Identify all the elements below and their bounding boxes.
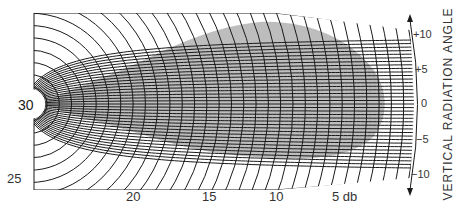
db-label-10: 10 <box>269 190 283 203</box>
db-label-5: 5 db <box>332 190 357 203</box>
angle-label-0: 0 <box>421 98 427 109</box>
angle-label-plus10: +10 <box>413 29 432 40</box>
angle-axis-line <box>410 20 418 190</box>
arrow-down-icon <box>407 188 413 196</box>
center-db-label: 30 <box>18 97 34 113</box>
angle-label-plus5: +5 <box>415 64 428 75</box>
angle-label-minus5: −5 <box>416 134 429 145</box>
radiation-pattern-diagram <box>0 0 466 214</box>
angle-axis-title: VERTICAL RADIATION ANGLE <box>441 7 455 200</box>
db-label-15: 15 <box>202 190 216 203</box>
arrow-up-icon <box>407 14 413 22</box>
db-label-20: 20 <box>126 190 140 203</box>
angle-label-minus10: −10 <box>411 169 430 180</box>
db-label-25: 25 <box>7 172 21 185</box>
